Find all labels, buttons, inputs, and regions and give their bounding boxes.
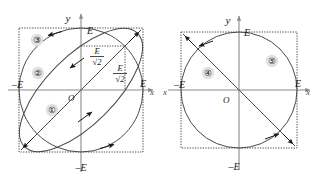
left-fraction-upper-numerator: E [93,46,100,56]
left-y-negative-label: –E [74,162,86,173]
right-x-negative-label: –E [173,79,185,90]
polarization-diagram-svg: y E –E –E E x O E √2 E √2 ③ ② ① [0,0,323,180]
right-badge-5: ⑤ [266,55,278,67]
left-badge-2-label: ② [34,68,42,78]
left-fraction-lower-denominator: √2 [116,74,126,84]
right-y-negative-label: –E [227,161,239,172]
right-origin-label: O [223,95,230,105]
figure-root: y E –E –E E x O E √2 E √2 ③ ② ① [0,0,323,180]
right-badge-4: ④ [202,67,214,79]
right-x-axis-label-left: x [162,87,167,97]
left-badge-3: ③ [31,34,43,46]
left-y-positive-label: E [86,25,93,36]
left-y-axis-label: y [65,12,71,24]
right-y-positive-label: E [243,27,250,38]
left-x-axis-label: x [149,87,154,97]
left-badge-3-label: ③ [33,35,41,45]
right-badge-5-label: ⑤ [268,56,276,66]
right-y-axis-label: y [225,14,231,26]
left-origin-label: O [68,93,75,103]
left-x-positive-label: E [139,78,146,89]
right-x-axis-label: x [305,87,310,97]
right-x-positive-label: E [294,78,301,89]
left-x-negative-label: –E [11,79,23,90]
left-badge-1: ① [46,104,58,116]
left-badge-2: ② [32,67,44,79]
left-fraction-lower-numerator: E [116,63,123,73]
left-fraction-upper-denominator: √2 [93,57,103,67]
left-badge-1-label: ① [48,105,56,115]
right-badge-4-label: ④ [204,68,212,78]
